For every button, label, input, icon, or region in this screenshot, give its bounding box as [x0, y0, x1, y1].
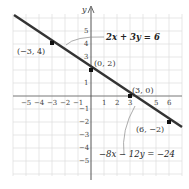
- svg-text:6: 6: [167, 99, 172, 107]
- y-axis-label: y: [81, 5, 87, 14]
- svg-text:3: 3: [84, 53, 88, 61]
- equation-label-2: −8x − 12y = −24: [99, 149, 175, 159]
- point-6-neg2: [167, 120, 171, 124]
- graph: y −5 −4 −3 −2 −1 1 2 3 5 6 5 4 3 1 −1 −2…: [0, 0, 189, 189]
- svg-text:−5: −5: [79, 157, 89, 165]
- equation-label-1: 2x + 3y = 6: [105, 32, 160, 42]
- svg-text:3: 3: [128, 99, 132, 107]
- label-point-3-0: (3, 0): [132, 86, 154, 95]
- points: [50, 41, 171, 124]
- svg-text:−2: −2: [60, 99, 70, 107]
- svg-text:5: 5: [84, 27, 88, 35]
- point-neg3-4: [50, 41, 54, 45]
- label-point-6-neg2: (6, −2): [136, 125, 164, 134]
- svg-text:−4: −4: [79, 144, 90, 152]
- svg-text:−5: −5: [21, 99, 31, 107]
- label-point-0-2: (0, 2): [94, 59, 116, 68]
- svg-text:−2: −2: [79, 118, 89, 126]
- svg-text:−4: −4: [34, 99, 45, 107]
- point-0-2: [89, 68, 93, 72]
- svg-text:2: 2: [115, 99, 119, 107]
- svg-text:−3: −3: [47, 99, 57, 107]
- svg-text:−1: −1: [79, 105, 89, 113]
- svg-text:−3: −3: [79, 131, 89, 139]
- svg-text:1: 1: [84, 79, 88, 87]
- svg-text:1: 1: [102, 99, 106, 107]
- label-point-neg3-4: (−3, 4): [17, 47, 45, 56]
- svg-text:4: 4: [84, 40, 89, 48]
- svg-text:5: 5: [154, 99, 158, 107]
